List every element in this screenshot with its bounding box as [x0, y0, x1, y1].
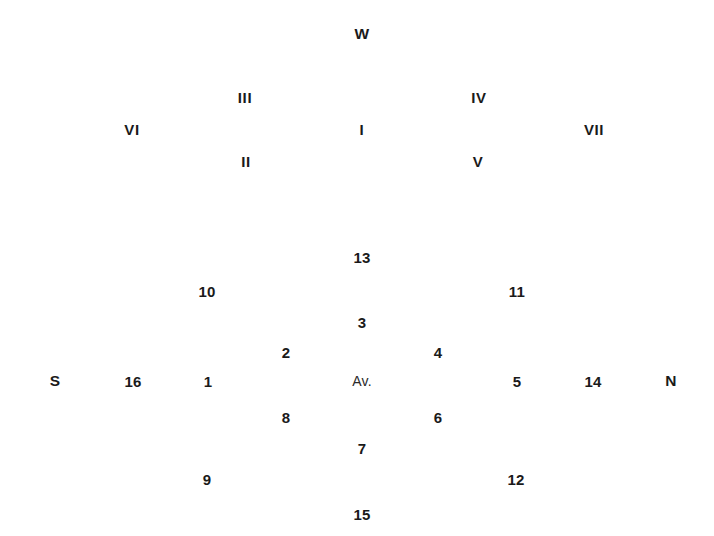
num-10: 10 [198, 284, 215, 299]
num-15: 15 [353, 507, 370, 522]
center-average-label: Av. [352, 374, 372, 388]
roman-i: I [360, 122, 365, 137]
west: W [355, 26, 370, 42]
num-14: 14 [584, 374, 601, 389]
num-7: 7 [358, 441, 367, 456]
num-13: 13 [353, 250, 370, 265]
roman-iv: IV [471, 90, 486, 105]
num-4: 4 [434, 345, 443, 360]
num-3: 3 [358, 315, 367, 330]
num-6: 6 [434, 410, 443, 425]
roman-ii: II [241, 154, 251, 169]
roman-vii: VII [584, 122, 604, 137]
roman-v: V [473, 154, 484, 169]
num-1: 1 [204, 374, 213, 389]
num-2: 2 [282, 345, 291, 360]
north: N [665, 373, 676, 389]
roman-iii: III [238, 90, 252, 105]
num-8: 8 [282, 410, 291, 425]
diagram-canvas: WSNVIIIIIIIIVVVII13101132416151486791215… [0, 0, 714, 536]
num-12: 12 [507, 472, 524, 487]
num-16: 16 [124, 374, 141, 389]
roman-vi: VI [124, 122, 139, 137]
num-9: 9 [203, 472, 212, 487]
num-11: 11 [509, 284, 525, 299]
num-5: 5 [513, 374, 522, 389]
south: S [50, 373, 61, 389]
